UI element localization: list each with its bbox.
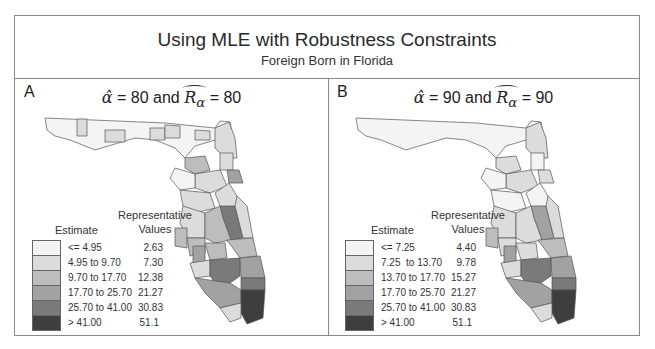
figure-title: Using MLE with Robustness Constraints	[15, 29, 639, 51]
rep-header-line2: Values	[428, 223, 508, 235]
legend-value: 30.83	[129, 302, 163, 313]
figure-header: Using MLE with Robustness Constraints Fo…	[15, 16, 639, 79]
rep-header-line2: Values	[115, 223, 195, 235]
legend-value: 21.27	[442, 287, 476, 298]
legend-range: 9.70 to 17.70	[68, 272, 126, 283]
florida-map	[328, 78, 639, 336]
legend-swatch	[346, 316, 373, 330]
legend-value: 30.83	[442, 302, 476, 313]
rep-header-line1: Representative	[115, 209, 195, 221]
legend-value: 51.1	[125, 317, 159, 328]
legend-value: 15.27	[442, 272, 476, 283]
figure-subtitle: Foreign Born in Florida	[15, 53, 639, 68]
legend-swatch	[346, 286, 373, 301]
legend-swatch	[33, 256, 60, 271]
legend-value: 9.78	[442, 257, 476, 268]
legend-range: 25.70 to 41.00	[381, 302, 445, 313]
legend-swatch	[33, 286, 60, 301]
legend-value: 7.30	[129, 257, 163, 268]
rep-header-line1: Representative	[428, 209, 508, 221]
legend-value: 12.38	[129, 272, 163, 283]
legend-estimate-header: Estimate	[55, 224, 98, 236]
legend-swatch	[346, 256, 373, 271]
figure-frame: Using MLE with Robustness Constraints Fo…	[14, 15, 640, 336]
legend-rep-header: Representative Values	[115, 209, 195, 235]
legend-swatch	[33, 316, 60, 330]
legend-estimate-header: Estimate	[371, 224, 414, 236]
legend-range: 4.95 to 9.70	[68, 257, 121, 268]
legend-value: 2.63	[129, 242, 163, 253]
florida-map	[15, 78, 328, 336]
legend-range: <= 4.95	[68, 242, 102, 253]
legend-swatch	[33, 241, 60, 256]
legend-range: 17.70 to 25.70	[381, 287, 445, 298]
panel-b: B α̂ = 90 and Rα = 90	[328, 78, 639, 336]
legend-swatch	[346, 271, 373, 286]
legend-swatch	[346, 301, 373, 316]
legend-range: 17.70 to 25.70	[68, 287, 132, 298]
legend-value: 21.27	[129, 287, 163, 298]
legend-swatches	[32, 240, 61, 331]
legend-range: > 41.00	[381, 317, 415, 328]
legend-swatches	[345, 240, 374, 331]
legend-rep-header: Representative Values	[428, 209, 508, 235]
legend-range: 25.70 to 41.00	[68, 302, 132, 313]
legend-range: 7.25 to 13.70	[381, 257, 442, 268]
legend-value: 4.40	[442, 242, 476, 253]
panel-a: A α̂ = 80 and Rα = 80	[15, 78, 329, 336]
legend-range: > 41.00	[68, 317, 102, 328]
legend-value: 51.1	[438, 317, 472, 328]
legend-swatch	[33, 301, 60, 316]
legend-swatch	[346, 241, 373, 256]
legend-swatch	[33, 271, 60, 286]
legend-range: <= 7.25	[381, 242, 415, 253]
legend-range: 13.70 to 17.70	[381, 272, 445, 283]
